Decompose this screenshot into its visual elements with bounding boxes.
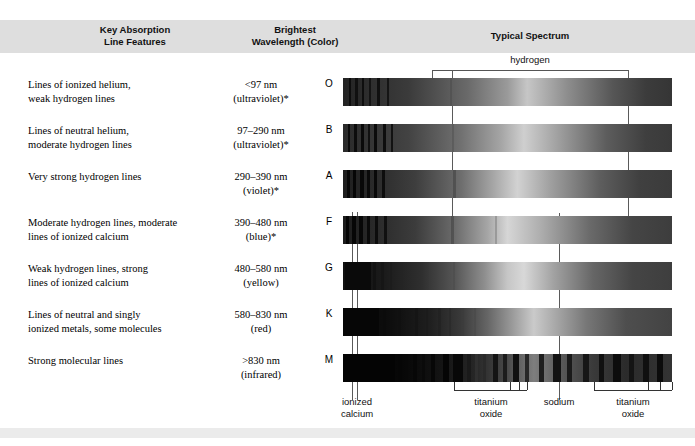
column-header-brightest-line1: Brightest xyxy=(180,24,410,36)
titanium-oxide-a-tick-2 xyxy=(510,382,511,390)
row-spectral-class: K xyxy=(322,308,336,319)
row-spectral-class: F xyxy=(322,216,336,227)
titanium-oxide-b-tick-4 xyxy=(672,382,673,390)
hydrogen-bracket-bar xyxy=(432,70,628,71)
titanium-oxide-b-tick-2 xyxy=(648,382,649,390)
spectrum-bar-B xyxy=(343,124,672,152)
ionized-calcium-label: ionized calcium xyxy=(320,396,394,419)
spectral-classification-figure: Key Absorption Line Features Brightest W… xyxy=(0,0,695,446)
hydrogen-bracket-label: hydrogen xyxy=(470,54,590,65)
spectrum-bar-G xyxy=(343,262,672,290)
titanium-oxide-b-bracket xyxy=(594,390,672,391)
row-spectral-class: B xyxy=(322,124,336,135)
row-wavelength: <97 nm (ultraviolet)* xyxy=(196,78,326,105)
titanium-oxide-a-tick-3 xyxy=(519,382,520,390)
row-wavelength: 290–390 nm (violet)* xyxy=(196,170,326,197)
spectrum-bar-O xyxy=(343,78,672,106)
row-wavelength: 390–480 nm (blue)* xyxy=(196,216,326,243)
hydrogen-line-left xyxy=(432,70,433,78)
column-header-brightest-wavelength: Brightest Wavelength (Color) xyxy=(180,24,410,48)
row-spectral-class: M xyxy=(322,354,336,365)
titanium-oxide-b-tick-1 xyxy=(594,382,595,390)
sodium-label: sodium xyxy=(530,396,588,408)
spectrum-bar-A xyxy=(343,170,672,198)
spectrum-bar-K xyxy=(343,308,672,336)
column-header-typical-spectrum: Typical Spectrum xyxy=(390,30,670,42)
row-spectral-class: O xyxy=(322,78,336,89)
titanium-oxide-a-tick-1 xyxy=(454,382,455,390)
titanium-oxide-a-label: titanium oxide xyxy=(451,396,531,419)
row-spectral-class: A xyxy=(322,170,336,181)
titanium-oxide-a-bracket xyxy=(454,390,527,391)
row-wavelength: 480–580 nm (yellow) xyxy=(196,262,326,289)
row-wavelength: >830 nm (infrared) xyxy=(196,354,326,381)
row-wavelength: 580–830 nm (red) xyxy=(196,308,326,335)
titanium-oxide-b-label: titanium oxide xyxy=(593,396,673,419)
row-spectral-class: G xyxy=(322,262,336,273)
spectrum-bar-F xyxy=(343,216,672,244)
footer-band xyxy=(0,428,695,438)
spectrum-bar-M xyxy=(343,354,672,382)
row-wavelength: 97–290 nm (ultraviolet)* xyxy=(196,124,326,151)
column-header-brightest-line2: Wavelength (Color) xyxy=(180,36,410,48)
titanium-oxide-b-tick-3 xyxy=(660,382,661,390)
titanium-oxide-a-tick-4 xyxy=(527,382,528,390)
